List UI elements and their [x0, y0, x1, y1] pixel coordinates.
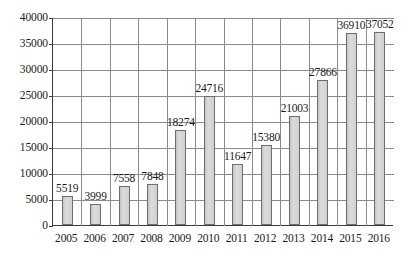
bar-value-label: 36910 [337, 20, 365, 32]
x-tick-label: 2007 [112, 232, 134, 244]
plot-area: 5519399975587848182742471611647153802100… [52, 18, 393, 226]
bar [346, 33, 357, 225]
y-tick-mark [49, 122, 53, 123]
gridline-vertical [252, 18, 253, 226]
bar [175, 130, 186, 225]
bar-value-label: 5519 [56, 183, 78, 195]
bar-value-label: 3999 [85, 191, 107, 203]
y-tick-mark [49, 96, 53, 97]
gridline-vertical [366, 18, 367, 226]
x-tick-label: 2014 [311, 232, 333, 244]
y-tick-label: 25000 [4, 90, 48, 102]
y-tick-label: 0 [4, 220, 48, 232]
y-tick-mark [49, 174, 53, 175]
x-tick-label: 2010 [197, 232, 219, 244]
bar-value-label: 11647 [224, 151, 251, 163]
x-tick-label: 2015 [339, 232, 361, 244]
gridline-vertical [224, 18, 225, 226]
bar-value-label: 15380 [252, 132, 280, 144]
y-tick-mark [49, 70, 53, 71]
y-tick-mark [49, 18, 53, 19]
y-tick-label: 5000 [4, 194, 48, 206]
y-tick-label: 40000 [4, 12, 48, 24]
bar-value-label: 7558 [113, 173, 135, 185]
bar [317, 80, 328, 225]
bar-value-label: 27866 [309, 67, 337, 79]
gridline-vertical [138, 18, 139, 226]
bar-value-label: 18274 [167, 117, 195, 129]
bar [204, 96, 215, 225]
bar-value-label: 21003 [281, 103, 309, 115]
x-tick-label: 2006 [84, 232, 106, 244]
x-axis: 2005200620072008200920102011201220132014… [52, 232, 393, 250]
bar [90, 204, 101, 225]
bar-chart: 0500010000150002000025000300003500040000… [0, 0, 410, 256]
y-tick-label: 10000 [4, 168, 48, 180]
bar [119, 186, 130, 225]
x-tick-label: 2013 [282, 232, 304, 244]
bar-value-label: 37052 [366, 19, 394, 31]
x-tick-label: 2008 [140, 232, 162, 244]
x-tick-label: 2012 [254, 232, 276, 244]
gridline-vertical [309, 18, 310, 226]
y-tick-mark [49, 148, 53, 149]
y-axis: 0500010000150002000025000300003500040000 [0, 0, 48, 256]
bar [289, 116, 300, 225]
y-tick-label: 30000 [4, 64, 48, 76]
bar-value-label: 7848 [141, 171, 163, 183]
gridline-vertical [110, 18, 111, 226]
x-tick-label: 2005 [55, 232, 77, 244]
bar [374, 32, 385, 225]
y-tick-mark [49, 44, 53, 45]
y-tick-label: 35000 [4, 38, 48, 50]
gridline-vertical [337, 18, 338, 226]
y-tick-mark [49, 226, 53, 227]
bar [232, 164, 243, 225]
bar-value-label: 24716 [195, 83, 223, 95]
y-tick-label: 15000 [4, 142, 48, 154]
bar [147, 184, 158, 225]
gridline-vertical [280, 18, 281, 226]
bar [261, 145, 272, 225]
gridline-vertical [81, 18, 82, 226]
bar [62, 196, 73, 225]
x-tick-label: 2016 [368, 232, 390, 244]
x-tick-label: 2011 [226, 232, 248, 244]
x-tick-label: 2009 [169, 232, 191, 244]
y-tick-mark [49, 200, 53, 201]
y-tick-label: 20000 [4, 116, 48, 128]
